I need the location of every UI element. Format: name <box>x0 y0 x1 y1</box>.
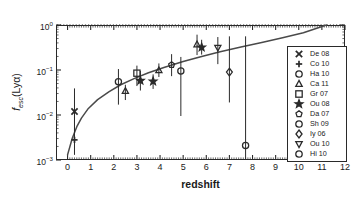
x-tick-label: 12 <box>335 163 355 172</box>
x-tick-label: 10 <box>289 163 309 172</box>
figure-root: 100 10−1 10−2 10−3 fesc(Lyα) 01234567891… <box>0 0 357 199</box>
legend-marker-circle-icon <box>288 149 310 159</box>
x-tick-label: 5 <box>173 163 193 172</box>
x-tick-label: 7 <box>219 163 239 172</box>
legend-label: Da 07 <box>310 109 329 119</box>
y-tick-label: 10−1 <box>36 66 53 76</box>
y-tick-label: 100 <box>40 21 53 31</box>
x-tick-label: 3 <box>127 163 147 172</box>
legend-label: Ou 10 <box>310 139 330 149</box>
x-tick-label: 11 <box>312 163 332 172</box>
legend-label: Co 10 <box>310 59 329 69</box>
legend-label: Gr 07 <box>310 89 328 99</box>
y-axis-title: fesc(Lyα) <box>10 37 24 147</box>
x-axis-title: redshift <box>56 178 345 190</box>
x-tick-label: 1 <box>81 163 101 172</box>
y-axis-tick-labels: 100 10−1 10−2 10−3 <box>0 0 53 199</box>
legend-item-hi-10[interactable]: Hi 10 <box>288 149 346 159</box>
legend-label: Ca 11 <box>310 79 329 89</box>
legend-label: Sh 09 <box>310 119 329 129</box>
legend-box: De 08Co 10Ha 10Ca 11Gr 07Ou 08Da 07Sh 09… <box>287 46 347 162</box>
legend-label: Ha 10 <box>310 69 329 79</box>
x-tick-label: 2 <box>104 163 124 172</box>
legend-label: Ou 08 <box>310 99 330 109</box>
legend-label: Iy 06 <box>310 129 326 139</box>
x-tick-label: 6 <box>196 163 216 172</box>
y-tick-label: 10−3 <box>36 156 53 166</box>
x-tick-label: 0 <box>58 163 78 172</box>
y-tick-label: 10−2 <box>36 111 53 121</box>
legend-label: Hi 10 <box>310 149 327 159</box>
legend-label: De 08 <box>310 49 329 59</box>
x-tick-label: 8 <box>243 163 263 172</box>
x-tick-label: 4 <box>150 163 170 172</box>
x-tick-label: 9 <box>266 163 286 172</box>
